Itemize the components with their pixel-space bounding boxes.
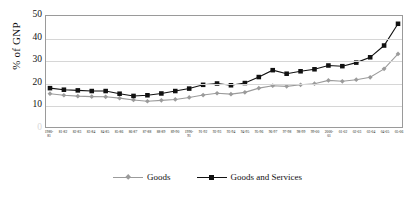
legend-marker-diamond-icon	[113, 173, 143, 182]
y-axis-tick-label: 10	[18, 100, 42, 110]
plot-area	[45, 15, 403, 128]
legend-marker-square-icon	[197, 173, 227, 182]
chart-legend: Goods Goods and Services	[0, 172, 415, 182]
legend-label: Goods and Services	[231, 172, 303, 182]
y-axis-tick-label: 30	[18, 55, 42, 65]
data-point-marker	[201, 93, 206, 98]
data-point-marker	[340, 64, 345, 69]
data-point-marker	[103, 94, 108, 99]
data-point-marker	[48, 86, 53, 91]
data-point-marker	[382, 43, 387, 48]
y-axis-tick-label: 40	[18, 33, 42, 43]
grid-line	[46, 39, 402, 40]
data-point-marker	[396, 22, 401, 27]
grid-line	[46, 61, 402, 62]
legend-label: Goods	[147, 172, 171, 182]
data-point-marker	[131, 98, 136, 103]
grid-line	[46, 106, 402, 107]
data-point-marker	[89, 89, 94, 94]
data-point-marker	[48, 91, 53, 96]
data-point-marker	[187, 95, 192, 100]
data-point-marker	[368, 55, 373, 60]
x-axis-tick-labels: 1980- 8181-8282-8383-8484-8585-8686-8787…	[45, 130, 403, 152]
data-point-marker	[368, 75, 373, 80]
data-point-marker	[298, 69, 303, 74]
data-point-marker	[256, 86, 261, 91]
grid-line	[46, 84, 402, 85]
data-point-marker	[117, 96, 122, 101]
data-point-marker	[173, 89, 178, 94]
data-point-marker	[354, 77, 359, 82]
data-point-marker	[173, 97, 178, 102]
chart-container: % of GNP 01020304050 1980- 8181-8282-838…	[0, 0, 415, 200]
y-axis-tick-label: 20	[18, 78, 42, 88]
legend-item-goods-and-services: Goods and Services	[197, 172, 303, 182]
data-point-marker	[62, 87, 67, 92]
x-axis-tick-label: 05-06	[386, 130, 412, 134]
y-axis-tick-label: 50	[18, 10, 42, 20]
data-point-marker	[242, 90, 247, 95]
data-point-marker	[229, 92, 234, 97]
data-point-marker	[284, 71, 289, 76]
data-point-marker	[326, 63, 331, 68]
data-point-marker	[145, 99, 150, 104]
data-point-marker	[257, 75, 262, 80]
y-axis-tick-labels: 01020304050	[18, 0, 42, 200]
data-point-marker	[89, 94, 94, 99]
data-point-marker	[159, 98, 164, 103]
data-point-marker	[159, 91, 164, 96]
data-point-marker	[117, 91, 122, 96]
data-point-marker	[215, 91, 220, 96]
series-line	[50, 24, 398, 96]
series-lines	[46, 16, 402, 127]
legend-item-goods: Goods	[113, 172, 171, 182]
data-point-marker	[270, 68, 275, 73]
data-point-marker	[76, 88, 81, 93]
data-point-marker	[103, 89, 108, 94]
data-point-marker	[187, 86, 192, 91]
data-point-marker	[312, 67, 317, 72]
data-point-marker	[75, 94, 80, 99]
data-point-marker	[145, 93, 150, 98]
data-point-marker	[131, 94, 136, 99]
data-point-marker	[326, 78, 331, 83]
data-point-marker	[62, 93, 67, 98]
